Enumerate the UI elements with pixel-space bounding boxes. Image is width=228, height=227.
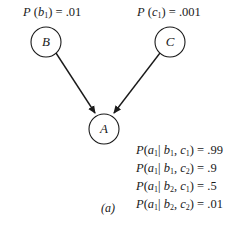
edge-c-to-a xyxy=(114,53,160,113)
node-a-label: A xyxy=(100,121,108,137)
prior-c-label: P (c1) = .001 xyxy=(137,6,201,20)
cpt-row: P(a1| b1, c1) = .99 xyxy=(136,143,223,161)
cpt-row: P(a1| b2, c2) = .01 xyxy=(136,197,223,215)
cpt-row: P(a1| b1, c2) = .9 xyxy=(136,161,223,179)
node-b-label: B xyxy=(42,34,50,50)
edge-b-to-a xyxy=(56,53,95,113)
node-c-label: C xyxy=(166,34,175,50)
cpt-row: P(a1| b2, c1) = .5 xyxy=(136,179,223,197)
conditional-probability-table: P(a1| b1, c1) = .99 P(a1| b1, c2) = .9 P… xyxy=(136,143,223,215)
figure-caption: (a) xyxy=(101,201,115,216)
prior-b-label: P (b1) = .01 xyxy=(23,6,81,20)
